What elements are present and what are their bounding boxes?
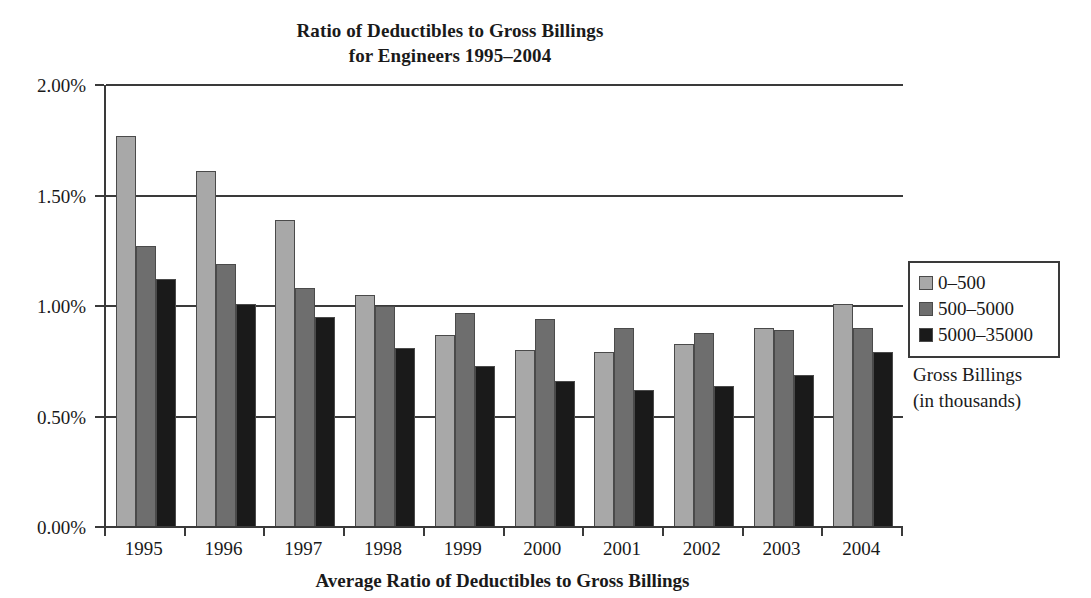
bar [714,386,734,527]
bar [435,335,455,527]
bar [395,348,415,527]
bar [873,352,893,527]
bar [853,328,873,527]
x-axis-label: 1999 [423,537,503,560]
x-axis-label: 2002 [662,537,742,560]
bar [156,279,176,527]
x-axis-label: 2001 [582,537,662,560]
legend-label: 5000–35000 [938,325,1033,345]
x-axis-tick [901,527,903,536]
bar [594,352,614,527]
legend-caption: Gross Billings (in thousands) [913,362,1083,414]
bar [535,319,555,527]
x-axis-label: 1998 [343,537,423,560]
legend-label: 0–500 [938,273,986,293]
x-axis-label: 1995 [104,537,184,560]
bar [355,295,375,527]
x-axis-tick [582,527,584,536]
x-axis-tick [343,527,345,536]
y-axis-tick [95,416,104,418]
bar [694,333,714,527]
x-axis-tick [263,527,265,536]
bar [833,304,853,527]
x-axis-tick [104,527,106,536]
chart-title: Ratio of Deductibles to Gross Billings f… [0,18,900,68]
x-axis-tick [423,527,425,536]
y-axis-tick [95,195,104,197]
y-axis-label: 0.50% [0,408,86,427]
x-axis-tick [821,527,823,536]
bar [475,366,495,527]
legend-item: 5000–35000 [919,322,1050,348]
x-axis-label: 2003 [741,537,821,560]
bar [116,136,136,527]
bar [375,306,395,527]
bar [674,344,694,527]
legend-item: 0–500 [919,270,1050,296]
x-axis-tick [742,527,744,536]
x-axis-label: 2004 [821,537,901,560]
legend-caption-line-1: Gross Billings [913,362,1083,388]
y-axis-label: 1.50% [0,187,86,206]
legend-swatch-icon [919,276,933,290]
gridline [106,195,903,197]
y-axis-tick [95,526,104,528]
y-axis-label: 1.00% [0,297,86,316]
x-axis-label: 1997 [263,537,343,560]
bar [515,350,535,527]
y-axis-label: 2.00% [0,76,86,95]
legend-swatch-icon [919,302,933,316]
bar [216,264,236,527]
x-axis-tick [662,527,664,536]
bar [455,313,475,527]
bar [555,381,575,527]
bar [136,246,156,527]
bar [315,317,335,527]
bar [275,220,295,527]
y-axis-tick [95,84,104,86]
bar [295,288,315,527]
legend-swatch-icon [919,328,933,342]
gridline [106,84,903,86]
y-axis-label: 0.00% [0,518,86,537]
bar [236,304,256,527]
y-axis-tick [95,305,104,307]
chart-title-line-1: Ratio of Deductibles to Gross Billings [0,18,900,43]
chart-title-line-2: for Engineers 1995–2004 [0,43,900,68]
legend-item: 500–5000 [919,296,1050,322]
x-axis-title: Average Ratio of Deductibles to Gross Bi… [104,569,901,592]
x-axis-line [106,526,903,528]
x-axis-label: 1996 [184,537,264,560]
plot-area [104,85,901,527]
bar [634,390,654,527]
bar [614,328,634,527]
legend-caption-line-2: (in thousands) [913,388,1083,414]
bar [196,171,216,527]
bar [774,330,794,527]
x-axis-tick [503,527,505,536]
bar [794,375,814,527]
x-axis-tick [184,527,186,536]
x-axis-label: 2000 [502,537,582,560]
legend-label: 500–5000 [938,299,1014,319]
bar [754,328,774,527]
chart-legend: 0–500500–50005000–35000 [908,261,1060,358]
